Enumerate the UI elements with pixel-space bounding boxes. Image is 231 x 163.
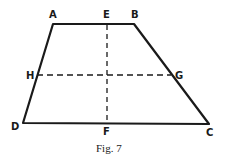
label-a: A (49, 9, 57, 20)
label-d: D (11, 121, 19, 132)
label-b: B (131, 9, 139, 20)
label-e: E (103, 9, 110, 20)
label-h: H (26, 70, 34, 81)
label-g: G (175, 70, 183, 81)
label-c: C (206, 127, 213, 138)
label-f: F (103, 126, 110, 137)
figure-caption: Fig. 7 (96, 142, 122, 154)
trapezoid-diagram: A E B H G D F C Fig. 7 (0, 0, 231, 163)
